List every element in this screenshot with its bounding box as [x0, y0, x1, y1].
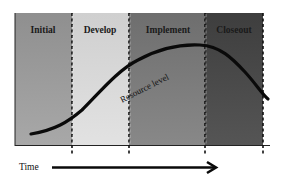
phase-label-closeout: Closeout [216, 25, 252, 35]
phase-label-develop: Develop [84, 25, 117, 35]
time-arrow-icon [52, 162, 216, 173]
project-lifecycle-diagram: Initial Develop Implement Closeout Resou… [0, 0, 286, 183]
phase-label-initial: Initial [31, 25, 56, 35]
time-axis-label: Time [19, 162, 39, 172]
phase-label-implement: Implement [146, 25, 191, 35]
